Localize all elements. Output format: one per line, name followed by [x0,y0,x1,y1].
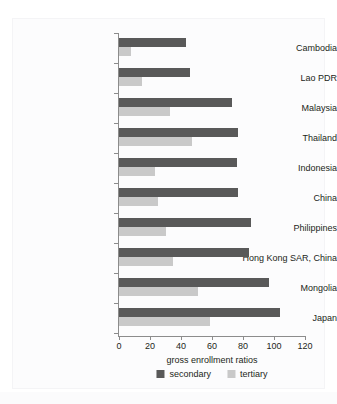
x-axis-tick [274,336,275,340]
y-axis-tick [114,63,118,64]
bar-tertiary [119,77,142,86]
bar-secondary [119,248,249,257]
bar-secondary [119,158,237,167]
bar-tertiary [119,107,170,116]
bar-secondary [119,68,190,77]
x-axis-tick-label: 20 [145,341,155,351]
legend-item-secondary[interactable]: secondary [156,369,211,379]
bar-tertiary [119,287,198,296]
scan-artifact-bottom [0,392,337,404]
y-axis-tick [114,243,118,244]
legend-swatch-tertiary-icon [227,370,235,378]
y-axis-category-label: Indonesia [225,163,337,173]
y-axis-category-label: Thailand [225,133,337,143]
bar-tertiary [119,167,155,176]
bar-secondary [119,98,232,107]
y-axis-tick [114,183,118,184]
y-axis-tick [114,303,118,304]
y-axis-tick [114,333,118,334]
plot-area: 020406080100120CambodiaLao PDRMalaysiaTh… [0,0,337,404]
y-axis-tick [114,123,118,124]
y-axis-tick [114,213,118,214]
x-axis-tick [150,336,151,340]
y-axis-category-label: Malaysia [225,103,337,113]
bar-tertiary [119,317,210,326]
bar-secondary [119,188,238,197]
x-axis-tick-label: 80 [238,341,248,351]
x-axis-tick [305,336,306,340]
bar-secondary [119,218,251,227]
x-axis-tick [212,336,213,340]
y-axis-tick [114,33,118,34]
legend-label-secondary: secondary [169,369,211,379]
x-axis-tick [243,336,244,340]
bar-secondary [119,38,186,47]
x-axis-tick-label: 40 [176,341,186,351]
bar-secondary [119,308,280,317]
x-axis-tick [181,336,182,340]
legend-label-tertiary: tertiary [240,369,268,379]
legend-swatch-secondary-icon [156,370,164,378]
bar-tertiary [119,227,166,236]
y-axis-category-label: China [225,193,337,203]
legend-item-tertiary[interactable]: tertiary [227,369,268,379]
bar-tertiary [119,137,192,146]
x-axis-title: gross enrollment ratios [166,355,257,365]
bar-tertiary [119,47,131,56]
x-axis-tick-label: 60 [207,341,217,351]
x-axis-tick-label: 100 [266,341,281,351]
y-axis-tick [114,93,118,94]
y-axis-category-label: Cambodia [225,43,337,53]
chart-figure: 020406080100120CambodiaLao PDRMalaysiaTh… [0,0,337,404]
x-axis-tick-label: 0 [116,341,121,351]
y-axis-category-label: Lao PDR [225,73,337,83]
x-axis-tick-label: 120 [297,341,312,351]
chart-legend: secondary tertiary [156,369,267,379]
bar-secondary [119,128,238,137]
bar-tertiary [119,257,173,266]
bar-tertiary [119,197,158,206]
y-axis-tick [114,273,118,274]
bar-secondary [119,278,269,287]
y-axis-tick [114,153,118,154]
x-axis-tick [119,336,120,340]
